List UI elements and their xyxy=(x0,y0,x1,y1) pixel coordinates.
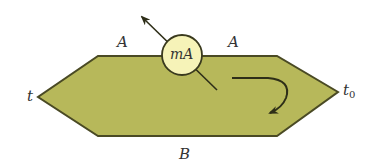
label-a-right: A xyxy=(228,35,239,50)
label-t-left: t xyxy=(27,89,33,104)
meter-label: mA xyxy=(170,47,193,61)
label-a-left: A xyxy=(117,35,128,50)
label-t0-right: t0 xyxy=(343,83,355,100)
label-b-bottom: B xyxy=(179,147,190,162)
label-t0-subscript: 0 xyxy=(349,89,355,100)
diagram-canvas xyxy=(0,0,372,163)
